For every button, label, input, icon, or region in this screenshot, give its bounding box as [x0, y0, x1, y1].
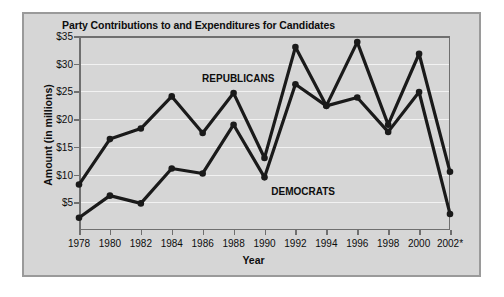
x-tick-mark — [357, 230, 359, 235]
data-point — [354, 94, 361, 101]
x-tick-mark — [450, 230, 452, 235]
data-point — [199, 130, 206, 137]
x-tick-mark — [234, 230, 236, 235]
x-tick-mark — [388, 230, 390, 235]
y-tick-label: $5 — [62, 197, 73, 208]
data-point — [138, 125, 145, 132]
data-point — [292, 44, 299, 51]
x-tick-mark — [295, 230, 297, 235]
y-tick-label: $30 — [56, 58, 73, 69]
chart-figure-frame: Party Contributions to and Expenditures … — [22, 12, 481, 277]
x-tick-label: 2000 — [408, 238, 430, 249]
y-axis-label: Amount (in millions) — [42, 55, 54, 215]
data-point — [447, 211, 454, 218]
x-tick-label: 1998 — [377, 238, 399, 249]
data-point — [230, 90, 237, 97]
series-line-democrats — [79, 84, 450, 218]
data-point — [168, 165, 175, 172]
data-point — [261, 174, 268, 181]
series-line-republicans — [79, 42, 450, 184]
y-tick-label: $35 — [56, 31, 73, 42]
data-point — [138, 200, 145, 207]
series-plot — [79, 36, 450, 230]
data-point — [76, 181, 83, 188]
data-point — [261, 155, 268, 162]
x-tick-label: 1996 — [346, 238, 368, 249]
data-point — [323, 103, 330, 110]
data-point — [107, 192, 114, 199]
y-tick-label: $20 — [56, 114, 73, 125]
x-tick-mark — [326, 230, 328, 235]
data-point — [447, 169, 454, 176]
x-tick-mark — [265, 230, 267, 235]
x-tick-label: 1980 — [99, 238, 121, 249]
data-point — [416, 50, 423, 57]
x-tick-label: 1992 — [284, 238, 306, 249]
y-tick-label: $25 — [56, 86, 73, 97]
x-tick-mark — [110, 230, 112, 235]
data-point — [168, 93, 175, 100]
x-tick-label: 1986 — [192, 238, 214, 249]
x-tick-label: 1982 — [130, 238, 152, 249]
x-tick-label: 2002* — [437, 238, 463, 249]
x-tick-mark — [419, 230, 421, 235]
data-point — [199, 170, 206, 177]
x-tick-label: 1978 — [68, 238, 90, 249]
x-tick-mark — [141, 230, 143, 235]
data-point — [76, 215, 83, 222]
y-tick-label: $10 — [56, 169, 73, 180]
x-tick-label: 1990 — [253, 238, 275, 249]
data-point — [385, 121, 392, 128]
x-axis-label: Year — [24, 254, 483, 266]
series-label-republicans: REPUBLICANS — [202, 73, 274, 84]
x-tick-label: 1988 — [222, 238, 244, 249]
data-point — [354, 39, 361, 46]
x-tick-mark — [203, 230, 205, 235]
y-tick-label: $15 — [56, 141, 73, 152]
data-point — [416, 89, 423, 96]
chart-title: Party Contributions to and Expenditures … — [62, 19, 335, 31]
x-tick-mark — [79, 230, 81, 235]
series-label-democrats: DEMOCRATS — [271, 185, 335, 196]
data-point — [107, 136, 114, 143]
plot-area: $5$10$15$20$25$30$35 1978198019821984198… — [79, 36, 450, 230]
x-tick-label: 1984 — [161, 238, 183, 249]
data-point — [385, 129, 392, 136]
x-tick-mark — [172, 230, 174, 235]
x-tick-label: 1994 — [315, 238, 337, 249]
data-point — [292, 81, 299, 88]
data-point — [230, 121, 237, 128]
